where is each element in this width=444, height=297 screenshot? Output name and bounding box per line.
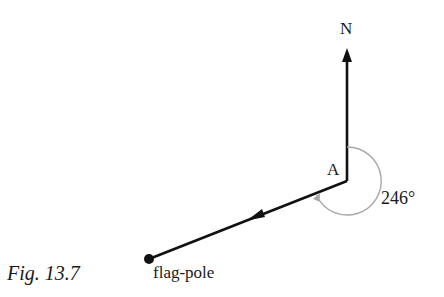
north-arrowhead-icon: [342, 48, 352, 62]
diagram-canvas: [0, 0, 444, 297]
figure-caption: Fig. 13.7: [7, 262, 80, 285]
bearing-angle-label: 246°: [381, 188, 415, 209]
angle-arc: [317, 147, 382, 215]
point-a-label: A: [327, 160, 339, 180]
flag-pole-label: flag-pole: [153, 263, 214, 283]
north-label: N: [340, 19, 352, 39]
direction-arrowhead-icon: [247, 209, 265, 221]
